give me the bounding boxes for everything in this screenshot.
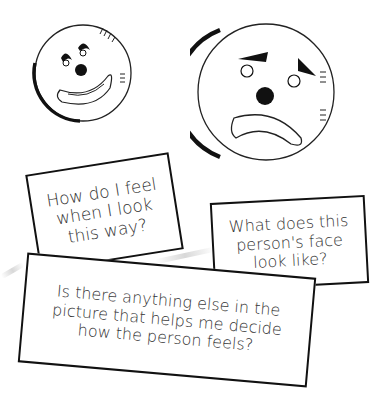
card-text: Is there anything else in the picture th… bbox=[50, 282, 284, 357]
card-text: What does this person's face look like? bbox=[228, 212, 350, 273]
sad-clown-face bbox=[190, 22, 335, 167]
card-text: How do I feel when I look this way? bbox=[45, 174, 164, 249]
smudge bbox=[0, 262, 24, 279]
happy-clown-face bbox=[28, 18, 138, 128]
